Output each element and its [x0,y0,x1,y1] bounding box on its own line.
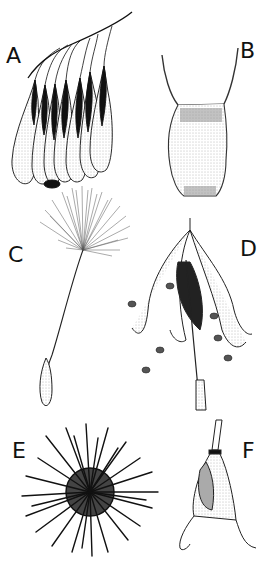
panel-label-a: A [6,45,21,67]
panel-a-drawing [12,12,132,188]
panel-label-d: D [240,238,257,260]
illustration-drawing [0,0,271,561]
panel-c-drawing [40,186,130,406]
panel-d-drawing [128,218,252,410]
panel-label-e: E [12,440,26,462]
panel-label-b: B [240,40,255,62]
panel-label-c: C [8,244,23,266]
panel-label-f: F [242,440,255,462]
seed-illustration-plate: A B C D E F [0,0,271,561]
panel-b-drawing [162,48,238,196]
panel-e-drawing [22,424,158,556]
